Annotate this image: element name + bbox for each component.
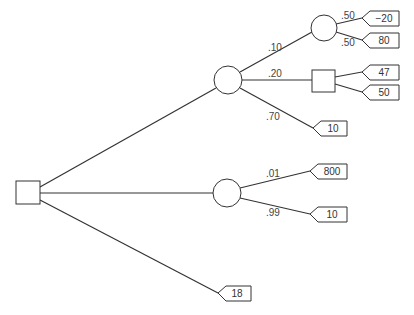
edge-subdecision-b — [335, 84, 362, 92]
prob-label: .20 — [268, 68, 282, 79]
edge-root-to-payoff-18 — [40, 200, 218, 293]
svg-text:800: 800 — [324, 166, 341, 177]
svg-text:18: 18 — [231, 288, 243, 299]
prob-label: .70 — [266, 111, 280, 122]
decision-tree: −20 80 47 50 10 800 10 18 .10 .20 .70 .5… — [0, 0, 414, 315]
svg-text:47: 47 — [378, 67, 390, 78]
svg-text:80: 80 — [378, 35, 390, 46]
payoff-80: 80 — [362, 33, 399, 48]
svg-text:10: 10 — [326, 209, 338, 220]
payoff-minus20: −20 — [362, 11, 399, 26]
prob-label: .01 — [266, 168, 280, 179]
sub-decision-node — [312, 70, 335, 92]
svg-text:−20: −20 — [376, 13, 393, 24]
root-decision-node — [16, 181, 40, 204]
payoff-50: 50 — [362, 85, 399, 100]
payoff-47: 47 — [362, 65, 399, 80]
chance-node-1 — [214, 66, 242, 94]
payoff-18: 18 — [218, 286, 251, 301]
edge-chance1-p70 — [240, 88, 313, 128]
svg-text:10: 10 — [327, 123, 339, 134]
prob-label: .50 — [341, 10, 355, 21]
prob-label: .10 — [268, 42, 282, 53]
chance-node-2 — [213, 179, 241, 207]
prob-label: .50 — [341, 37, 355, 48]
edge-subdecision-a — [335, 72, 362, 77]
payoff-10-a: 10 — [313, 121, 347, 136]
prob-label: .99 — [266, 207, 280, 218]
payoff-800: 800 — [310, 164, 347, 179]
sub-chance-node — [311, 15, 337, 41]
svg-text:50: 50 — [378, 87, 390, 98]
payoff-10-b: 10 — [310, 207, 347, 222]
edge-root-to-chance1 — [40, 88, 216, 187]
